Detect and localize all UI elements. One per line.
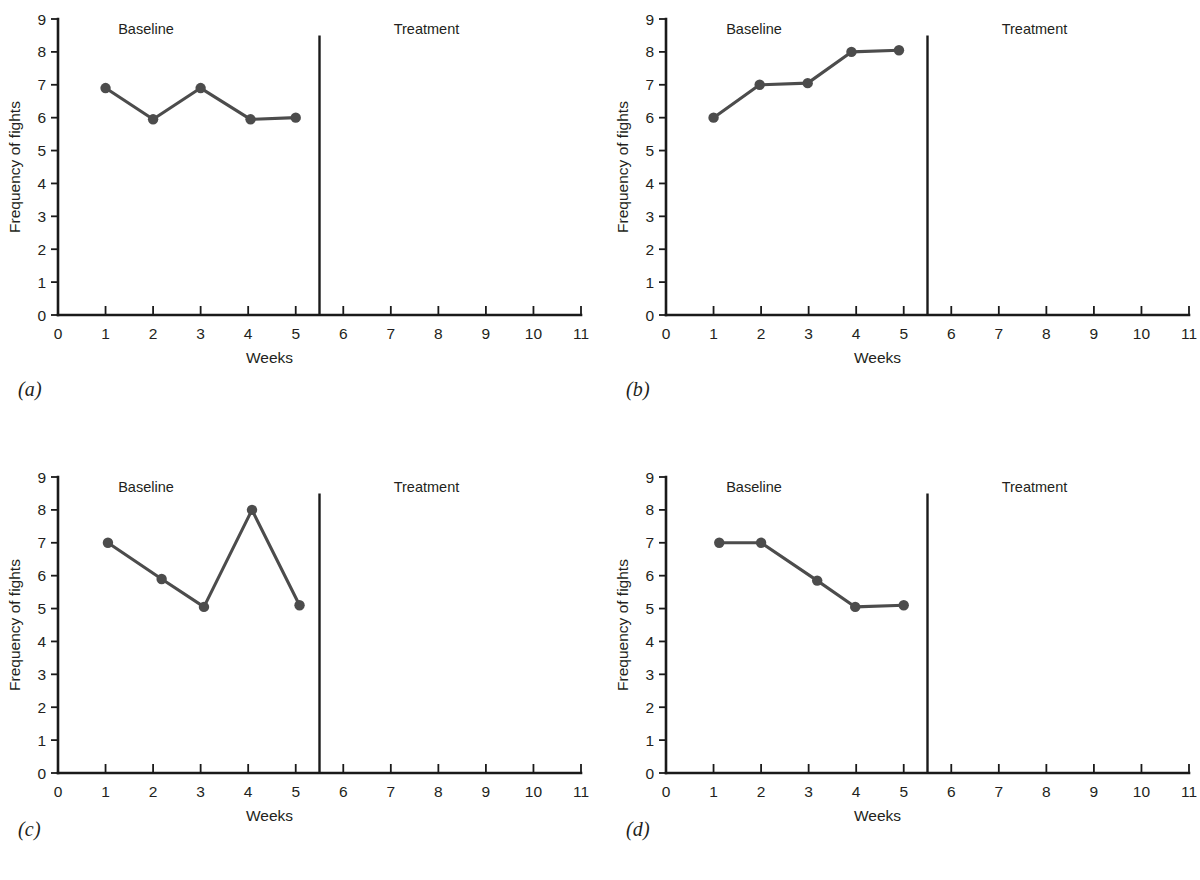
x-tick-label: 2 [757,783,766,800]
x-tick-label: 5 [899,325,908,342]
x-tick-label: 6 [947,325,956,342]
x-tick-label: 0 [54,783,63,800]
chart-panel-a: 012345678901234567891011WeeksFrequency o… [0,0,600,440]
x-tick-label: 9 [482,325,491,342]
x-tick-label: 3 [804,783,813,800]
series-line [108,510,300,607]
phase-label-baseline: Baseline [726,21,782,37]
y-tick-label: 7 [645,534,654,551]
y-tick-label: 7 [37,76,46,93]
y-tick-label: 1 [37,732,46,749]
y-tick-label: 8 [37,43,46,60]
data-point-marker [195,83,205,93]
y-tick-label: 4 [37,633,46,650]
x-tick-label: 4 [244,783,253,800]
y-tick-label: 2 [645,241,654,258]
chart-panel-d: 012345678901234567891011WeeksFrequency o… [608,458,1200,880]
y-tick-label: 8 [37,501,46,518]
y-tick-label: 2 [645,699,654,716]
x-tick-label: 3 [804,325,813,342]
x-tick-label: 11 [1181,325,1197,342]
phase-label-baseline: Baseline [726,479,782,495]
data-point-marker [156,574,166,584]
data-point-marker [894,45,904,55]
chart-panel-c: 012345678901234567891011WeeksFrequency o… [0,458,600,880]
x-tick-label: 8 [1042,325,1051,342]
data-point-marker [899,600,909,610]
data-point-marker [708,112,718,122]
y-tick-label: 5 [37,600,46,617]
x-tick-label: 6 [339,783,348,800]
panel-caption-b: (b) [626,378,650,401]
y-tick-label: 3 [37,666,46,683]
x-tick-label: 9 [482,783,491,800]
y-tick-label: 5 [645,142,654,159]
y-tick-label: 4 [37,175,46,192]
data-point-marker [199,602,209,612]
x-axis-title: Weeks [854,349,901,366]
y-tick-label: 6 [645,109,654,126]
x-tick-label: 10 [525,325,543,342]
x-tick-label: 4 [852,783,861,800]
x-axis-title: Weeks [246,807,293,824]
data-point-marker [812,575,822,585]
x-tick-label: 4 [244,325,253,342]
data-point-marker [148,114,158,124]
y-tick-label: 7 [645,76,654,93]
y-tick-label: 2 [37,241,46,258]
x-tick-label: 2 [149,325,158,342]
phase-label-baseline: Baseline [118,479,174,495]
y-axis-title: Frequency of fights [614,559,631,691]
x-tick-label: 3 [196,783,205,800]
data-point-marker [291,112,301,122]
y-tick-label: 1 [645,732,654,749]
y-tick-label: 0 [37,307,46,324]
chart-svg: 012345678901234567891011WeeksFrequency o… [0,0,600,440]
y-tick-label: 9 [37,469,46,486]
x-tick-label: 1 [101,783,110,800]
chart-panel-b: 012345678901234567891011WeeksFrequency o… [608,0,1200,440]
x-tick-label: 2 [149,783,158,800]
y-tick-label: 4 [645,175,654,192]
x-tick-label: 10 [525,783,543,800]
data-point-marker [247,505,257,515]
x-tick-label: 5 [899,783,908,800]
y-tick-label: 5 [37,142,46,159]
y-tick-label: 6 [37,109,46,126]
chart-svg: 012345678901234567891011WeeksFrequency o… [0,458,600,880]
x-tick-label: 7 [387,325,396,342]
chart-svg: 012345678901234567891011WeeksFrequency o… [608,458,1200,880]
y-tick-label: 7 [37,534,46,551]
data-point-marker [754,80,764,90]
x-tick-label: 1 [709,783,718,800]
y-tick-label: 8 [645,43,654,60]
x-tick-label: 7 [995,783,1004,800]
x-tick-label: 11 [573,325,589,342]
x-tick-label: 8 [434,783,443,800]
phase-label-baseline: Baseline [118,21,174,37]
y-tick-label: 1 [645,274,654,291]
x-tick-label: 9 [1090,783,1099,800]
y-tick-label: 1 [37,274,46,291]
y-tick-label: 0 [645,307,654,324]
phase-label-treatment: Treatment [394,21,460,37]
phase-label-treatment: Treatment [394,479,460,495]
y-axis-title: Frequency of fights [614,101,631,233]
x-tick-label: 10 [1133,783,1151,800]
y-tick-label: 3 [645,208,654,225]
x-tick-label: 3 [196,325,205,342]
data-point-marker [756,538,766,548]
x-tick-label: 5 [291,783,300,800]
x-tick-label: 11 [1181,783,1197,800]
x-tick-label: 0 [54,325,63,342]
y-tick-label: 9 [645,11,654,28]
x-tick-label: 0 [662,325,671,342]
y-tick-label: 9 [37,11,46,28]
x-tick-label: 11 [573,783,589,800]
x-tick-label: 6 [947,783,956,800]
data-point-marker [714,538,724,548]
x-tick-label: 6 [339,325,348,342]
y-tick-label: 8 [645,501,654,518]
figure-four-panel-line-charts: 012345678901234567891011WeeksFrequency o… [0,0,1200,880]
x-tick-label: 4 [852,325,861,342]
